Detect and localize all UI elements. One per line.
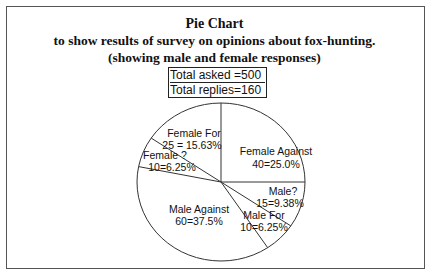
label-female-for: Female For [167,127,221,139]
value-male-against: 60=37.5% [175,215,223,227]
value-female-for: 25 = 15.63% [162,139,221,151]
label-male-q: Male? [269,185,298,197]
value-female-q: 10=6.25% [148,161,196,173]
pie-chart: Female Against 40=25.0% Male? 15=9.38% M… [0,0,429,273]
label-male-against: Male Against [169,203,229,215]
value-male-q: 15=9.38% [256,197,304,209]
label-male-for: Male For [243,209,285,221]
label-female-against: Female Against [240,145,312,157]
pie-slices [137,103,305,261]
value-female-against: 40=25.0% [252,158,300,170]
value-male-for: 10=6.25% [240,221,288,233]
